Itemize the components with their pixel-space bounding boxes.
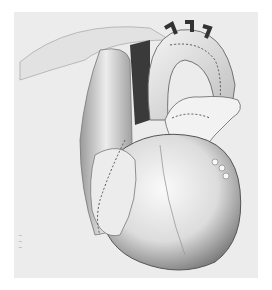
pledget — [223, 173, 229, 179]
pledget — [219, 165, 225, 171]
cavity-shadow — [130, 40, 150, 125]
artist-signature: ~ ~ ~ — [18, 232, 22, 250]
signature-line: ~ — [18, 244, 22, 250]
heart-illustration — [0, 0, 272, 290]
pledget — [212, 159, 218, 165]
